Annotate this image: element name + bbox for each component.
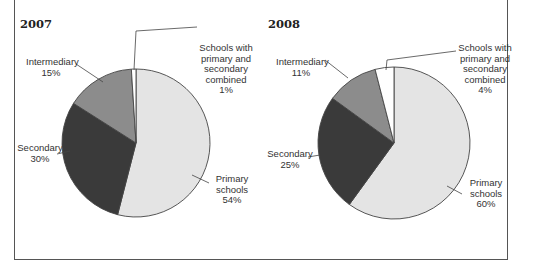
chart-title-2007: 2007 [20,17,52,31]
label-2007-intermediary: Intermediary 15% [26,57,76,78]
chart-title-2008: 2008 [268,17,300,31]
label-2008-primary: Primary schools 60% [466,178,506,210]
leader-line-2007-combined [134,27,197,70]
label-2007-combined: Schools with primary and secondary combi… [196,43,256,96]
leader-line-2007-intermediary [76,64,103,82]
label-2007-secondary: Secondary 30% [17,143,63,164]
label-2008-combined: Schools with primary and secondary combi… [455,43,515,96]
pie-charts [0,0,533,273]
label-2008-secondary: Secondary 25% [267,149,313,170]
label-2007-primary: Primary schools 54% [212,174,252,206]
label-2008-intermediary: Intermediary 11% [276,57,326,78]
